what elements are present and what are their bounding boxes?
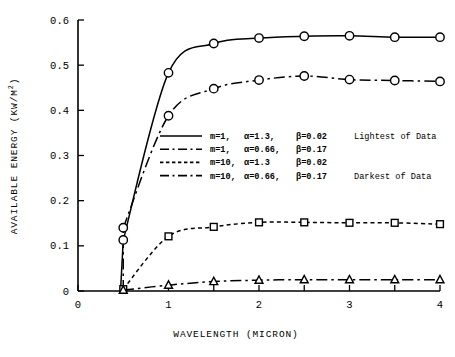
y-axis-title: AVAILABLE ENERGY (KW/M2) (8, 78, 20, 235)
x-tick-label: 3 (346, 299, 352, 311)
legend-m-value: m=1, (210, 132, 231, 142)
y-axis-tick-labels: 00.10.20.30.40.50.6 (50, 15, 69, 298)
y-axis-ticks (78, 20, 84, 291)
legend-beta-value: β=0.02 (296, 132, 327, 142)
data-point-marker (165, 233, 172, 240)
data-point-marker (437, 221, 444, 228)
data-point-marker (345, 75, 353, 83)
x-tick-label: 1 (165, 299, 171, 311)
data-point-marker (256, 219, 263, 226)
y-tick-label: 0.1 (50, 240, 69, 252)
data-point-marker (391, 219, 398, 226)
legend-beta-value: β=0.17 (296, 172, 327, 182)
data-point-marker (391, 33, 399, 41)
data-point-marker (346, 219, 353, 226)
y-tick-label: 0.6 (50, 15, 69, 27)
data-point-marker (436, 33, 444, 41)
data-point-marker (164, 69, 172, 77)
data-point-marker (165, 281, 173, 288)
y-tick-label: 0.5 (50, 60, 69, 72)
x-tick-label: 4 (437, 299, 443, 311)
data-point-marker (391, 76, 399, 84)
chart-figure: 00.10.20.30.40.50.6 01234 m=1,α=1.3,β=0.… (0, 0, 455, 357)
legend-beta-value: β=0.02 (296, 158, 327, 168)
data-point-marker (300, 72, 308, 80)
data-point-marker (255, 76, 263, 84)
legend-beta-value: β=0.17 (296, 145, 327, 155)
data-point-marker (164, 112, 172, 120)
data-point-marker (301, 219, 308, 226)
data-point-marker (119, 224, 127, 232)
legend-note: Lightest of Data (354, 132, 437, 142)
data-point-marker (210, 223, 217, 230)
data-point-marker (436, 77, 444, 85)
data-point-marker (345, 32, 353, 40)
data-point-marker (436, 275, 444, 282)
y-tick-label: 0.4 (50, 105, 69, 117)
data-point-marker (391, 275, 399, 282)
data-point-marker (346, 275, 354, 282)
data-point-marker (255, 276, 263, 283)
series-line (123, 76, 440, 228)
y-axis-title-text: AVAILABLE ENERGY (KW/M (9, 89, 20, 234)
y-tick-label: 0 (63, 286, 69, 298)
legend-m-value: m=10, (210, 158, 236, 168)
legend-alpha-value: α=0.66, (244, 172, 280, 182)
legend-note: Darkest of Data (354, 172, 431, 182)
chart-legend: m=1,α=1.3,β=0.02Lightest of Datam=1,α=0.… (160, 132, 437, 182)
x-tick-label: 0 (75, 299, 81, 311)
legend-m-value: m=10, (210, 172, 236, 182)
x-axis-ticks (78, 285, 440, 291)
legend-alpha-value: α=0.66, (244, 145, 280, 155)
svg-text:AVAILABLE ENERGY (KW/M2): AVAILABLE ENERGY (KW/M2) (8, 78, 20, 235)
legend-m-value: m=1, (210, 145, 231, 155)
y-axis-title-tail: ) (9, 78, 20, 85)
data-point-marker (255, 34, 263, 42)
data-point-marker (300, 32, 308, 40)
x-axis-tick-labels: 01234 (75, 299, 443, 311)
data-point-marker (210, 277, 218, 284)
data-point-marker (210, 39, 218, 47)
y-tick-label: 0.3 (50, 150, 69, 162)
x-tick-label: 2 (256, 299, 262, 311)
legend-alpha-value: α=1.3, (244, 132, 275, 142)
data-point-marker (300, 275, 308, 282)
x-axis-title: WAVELENGTH (MICRON) (173, 329, 298, 340)
data-point-marker (119, 236, 127, 244)
y-tick-label: 0.2 (50, 195, 69, 207)
line-chart-svg: 00.10.20.30.40.50.6 01234 m=1,α=1.3,β=0.… (0, 0, 455, 357)
legend-alpha-value: α=1.3 (244, 158, 270, 168)
data-point-marker (210, 84, 218, 92)
